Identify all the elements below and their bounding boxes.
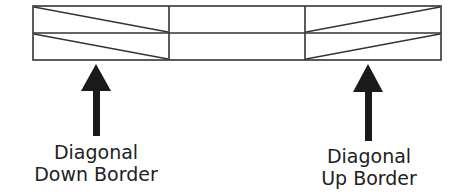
callout-line2: Up Border: [321, 167, 417, 189]
diagonal-down-border-row1: [34, 7, 168, 32]
diagonal-up-border-row2: [306, 34, 440, 59]
callout-line1: Diagonal: [321, 145, 417, 167]
callout-line1: Diagonal: [34, 141, 158, 163]
cell-grid: [33, 6, 441, 60]
callout-label-diagonal-up: Diagonal Up Border: [321, 145, 417, 189]
diagonal-down-border-row2: [34, 34, 168, 59]
diagonal-up-border-row1: [306, 7, 440, 32]
callout-label-diagonal-down: Diagonal Down Border: [34, 141, 158, 185]
up-arrow-icon: [81, 64, 111, 136]
up-arrow-icon: [353, 64, 383, 141]
callout-line2: Down Border: [34, 163, 158, 185]
